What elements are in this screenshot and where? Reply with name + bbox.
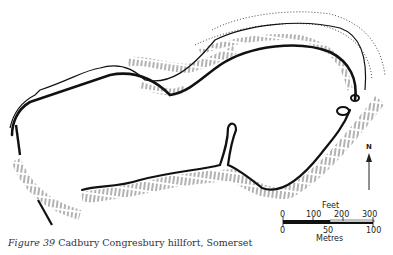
west-entrance (16, 125, 20, 155)
east-enclosure (337, 107, 349, 115)
scale-feet-tick-200: 200 (334, 210, 349, 219)
north-label: N (366, 143, 372, 151)
scale-feet-tick-300: 300 (362, 210, 377, 219)
figure-title: Cadbury Congresbury hillfort, Somerset (58, 237, 252, 248)
scale-feet-label: Feet (322, 201, 339, 210)
scale-metres-tick-0: 0 (280, 226, 285, 235)
north-arrow-icon (366, 153, 372, 190)
scale-metres-label: Metres (316, 234, 343, 243)
figure-caption: Figure 39 Cadbury Congresbury hillfort, … (8, 237, 252, 248)
scale-metres-tick-100: 100 (366, 226, 381, 235)
figure-label: Figure 39 (8, 237, 55, 248)
scale-feet-tick-100: 100 (306, 210, 321, 219)
scale-feet-tick-0: 0 (280, 210, 285, 219)
